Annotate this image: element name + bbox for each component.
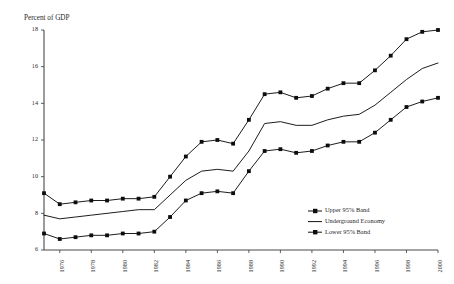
data-point-marker (247, 118, 251, 122)
y-axis-title: Percent of GDP (24, 14, 70, 22)
legend-item: Lower 95% Band (308, 228, 371, 235)
x-axis-tick-label: 1994 (341, 260, 348, 272)
data-point-marker (310, 94, 314, 98)
chart-container: Percent of GDP 681012141618 197619781980… (0, 0, 454, 284)
x-axis-tick-label: 1990 (278, 260, 285, 272)
x-axis-tick-label: 1992 (310, 260, 317, 272)
data-point-marker (373, 131, 377, 135)
data-point-marker (89, 199, 93, 203)
x-axis-tick-label: 1996 (373, 260, 380, 272)
legend-label: Underground Economy (325, 217, 386, 224)
data-point-marker (184, 199, 188, 203)
data-point-marker (436, 96, 440, 100)
x-axis-tick-label: 1982 (152, 260, 159, 272)
data-point-marker (200, 140, 204, 144)
chart-legend: Upper 95% BandUnderground EconomyLower 9… (308, 206, 386, 234)
data-point-marker (42, 232, 46, 236)
y-axis-tick-label: 14 (32, 99, 38, 106)
data-point-marker (215, 189, 219, 193)
x-axis-tick-label: 1976 (58, 260, 65, 272)
data-point-marker (74, 200, 78, 204)
data-point-marker (231, 191, 235, 195)
data-point-marker (279, 147, 283, 151)
data-point-marker (420, 30, 424, 34)
data-point-marker (373, 68, 377, 72)
data-point-marker (184, 155, 188, 159)
x-axis-tick-label: 2000 (436, 260, 443, 272)
data-point-marker (42, 191, 46, 195)
data-point-marker (405, 37, 409, 41)
x-axis-tick-label: 1988 (247, 260, 254, 272)
x-axis-tick-label: 1984 (184, 260, 191, 272)
data-point-marker (342, 81, 346, 85)
data-point-marker (152, 230, 156, 234)
data-point-marker (263, 92, 267, 96)
x-axis-tick-group: 1976197819801982198419861988199019921994… (58, 250, 443, 272)
data-point-marker (389, 54, 393, 58)
data-point-marker (342, 140, 346, 144)
series-path (44, 63, 438, 219)
y-axis-tick-label: 10 (32, 172, 38, 179)
data-point-marker (137, 232, 141, 236)
series-underground-economy (44, 63, 438, 219)
legend-item: Upper 95% Band (308, 206, 370, 213)
x-axis-tick-label: 1978 (89, 260, 96, 272)
data-point-marker (279, 90, 283, 94)
data-point-marker (121, 232, 125, 236)
data-point-marker (200, 191, 204, 195)
legend-swatch-marker (313, 209, 317, 213)
series-path (44, 30, 438, 204)
data-point-marker (152, 195, 156, 199)
data-point-marker (436, 28, 440, 32)
data-point-marker (58, 202, 62, 206)
y-axis-tick-label: 16 (32, 62, 38, 69)
x-axis-tick-label: 1998 (404, 260, 411, 272)
y-axis-tick-label: 8 (35, 209, 38, 216)
data-point-marker (357, 81, 361, 85)
data-point-marker (294, 151, 298, 155)
legend-item: Underground Economy (308, 217, 386, 224)
data-point-marker (326, 87, 330, 91)
underground-economy-line-chart: Percent of GDP 681012141618 197619781980… (0, 0, 454, 284)
y-axis-tick-label: 12 (32, 135, 38, 142)
legend-label: Upper 95% Band (325, 206, 370, 213)
x-axis-tick-label: 1980 (121, 260, 128, 272)
data-point-marker (326, 144, 330, 148)
y-axis-tick-label: 18 (32, 25, 38, 32)
data-point-marker (420, 100, 424, 104)
series-layer (42, 28, 440, 241)
data-point-marker (389, 118, 393, 122)
data-point-marker (168, 215, 172, 219)
data-point-marker (247, 169, 251, 173)
data-point-marker (89, 233, 93, 237)
data-point-marker (231, 142, 235, 146)
data-point-marker (121, 197, 125, 201)
data-point-marker (105, 199, 109, 203)
legend-swatch-marker (313, 230, 317, 234)
data-point-marker (310, 149, 314, 153)
data-point-marker (215, 138, 219, 142)
data-point-marker (294, 96, 298, 100)
data-point-marker (263, 149, 267, 153)
data-point-marker (168, 175, 172, 179)
data-point-marker (58, 237, 62, 241)
x-axis-tick-label: 1986 (215, 260, 222, 272)
y-axis-tick-label: 6 (35, 245, 38, 252)
data-point-marker (357, 140, 361, 144)
y-axis-tick-group: 681012141618 (32, 25, 44, 252)
data-point-marker (74, 235, 78, 239)
series-upper-95-band (42, 28, 440, 206)
legend-label: Lower 95% Band (325, 228, 371, 235)
data-point-marker (137, 197, 141, 201)
data-point-marker (105, 233, 109, 237)
data-point-marker (405, 105, 409, 109)
